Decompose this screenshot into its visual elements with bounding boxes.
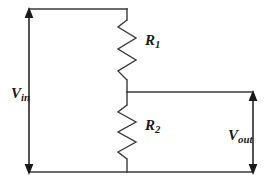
label-r2: R2	[145, 118, 160, 133]
label-vin-subscript: in	[21, 91, 30, 103]
label-vout-subscript: out	[238, 133, 252, 145]
label-vin: Vin	[11, 86, 30, 101]
arrowhead-down-vin	[25, 164, 34, 175]
label-r2-symbol: R	[145, 117, 155, 133]
label-r1: R1	[145, 33, 160, 48]
arrowhead-down-vout	[249, 164, 258, 175]
resistor-r1-symbol	[118, 20, 136, 80]
label-r1-symbol: R	[145, 32, 155, 48]
label-vin-symbol: V	[11, 85, 21, 101]
circuit-schematic-canvas	[0, 0, 275, 182]
label-vout: Vout	[228, 128, 252, 143]
resistor-r2-symbol	[118, 105, 136, 159]
voltage-divider-diagram: Vin Vout R1 R2	[0, 0, 275, 182]
label-r2-subscript: 2	[155, 123, 160, 135]
label-r1-subscript: 1	[155, 38, 160, 50]
label-vout-symbol: V	[228, 127, 238, 143]
